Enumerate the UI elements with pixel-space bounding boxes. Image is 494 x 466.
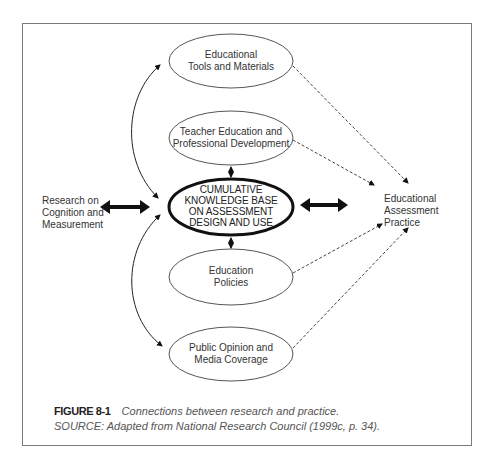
node-tools-label: Educational Tools and Materials <box>169 49 293 73</box>
figure-source: SOURCE: Adapted from National Research C… <box>54 419 464 434</box>
figure-number: FIGURE 8-1 <box>54 405 111 417</box>
node-core-label: CUMULATIVE KNOWLEDGE BASE ON ASSESSMENT … <box>169 184 293 228</box>
node-public-label: Public Opinion and Media Coverage <box>169 342 293 366</box>
node-teacher-label: Teacher Education and Professional Devel… <box>169 126 293 150</box>
dashed-arrow-tools-practice <box>293 66 408 183</box>
node-core-line1: CUMULATIVE <box>169 184 293 195</box>
node-policies-line2: Policies <box>169 277 293 289</box>
dashed-arrow-policies-practice <box>293 224 382 273</box>
node-policies-line1: Education <box>169 265 293 277</box>
practice-label: Educational Assessment Practice <box>384 193 438 229</box>
research-line2: Cognition and <box>42 207 104 219</box>
node-core-line4: DESIGN AND USE <box>169 217 293 228</box>
thick-arrow-research-core <box>100 200 150 214</box>
research-label: Research on Cognition and Measurement <box>42 195 104 231</box>
node-core-line2: KNOWLEDGE BASE <box>169 195 293 206</box>
curved-arrow-core-tools <box>132 65 160 198</box>
node-public-line1: Public Opinion and <box>169 342 293 354</box>
node-tools-line1: Educational <box>169 49 293 61</box>
practice-line1: Educational <box>384 193 438 205</box>
figure-caption: FIGURE 8-1 Connections between research … <box>54 404 464 434</box>
research-line3: Measurement <box>42 219 104 231</box>
research-line1: Research on <box>42 195 104 207</box>
practice-line3: Practice <box>384 217 438 229</box>
figure-title: Connections between research and practic… <box>122 405 340 417</box>
practice-line2: Assessment <box>384 205 438 217</box>
thick-arrow-core-practice <box>300 198 348 212</box>
dashed-arrow-teacher-practice <box>293 140 374 185</box>
node-teacher-line1: Teacher Education and <box>169 126 293 138</box>
node-tools-line2: Tools and Materials <box>169 61 293 73</box>
node-policies-label: Education Policies <box>169 265 293 289</box>
node-public-line2: Media Coverage <box>169 354 293 366</box>
dashed-arrow-public-practice <box>293 228 408 348</box>
node-core-line3: ON ASSESSMENT <box>169 206 293 217</box>
curved-arrow-core-public <box>132 215 162 346</box>
node-teacher-line2: Professional Development <box>169 138 293 150</box>
